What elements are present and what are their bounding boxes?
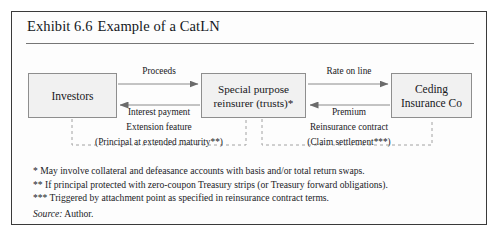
source-value: Author. [62, 208, 93, 219]
title-divider [26, 43, 474, 44]
node-investors[interactable]: Investors [28, 73, 117, 118]
source-label: Source: [33, 208, 62, 219]
node-ceding-insurance-co-label: Ceding Insurance Co [401, 82, 462, 110]
node-special-purpose-reinsurer-label: Special purpose reinsurer (trusts)* [214, 82, 294, 110]
catln-flow-diagram: Investors Special purpose reinsurer (tru… [12, 45, 486, 160]
flow-label-interest-payment: Interest payment [128, 107, 190, 118]
exhibit-frame: Exhibit 6.6Example of a CatLN Investors [11, 11, 487, 225]
flow-label-claim-settlement: (Claim settlement***) [307, 137, 390, 148]
flow-label-principal-maturity: (Principal at extended maturity**) [95, 137, 223, 148]
flow-label-extension-feature: Extension feature [126, 122, 191, 133]
exhibit-title: Exhibit 6.6Example of a CatLN [27, 18, 220, 35]
flow-label-reinsurance-contract: Reinsurance contract [310, 122, 388, 133]
exhibit-number: Exhibit 6.6 [27, 18, 93, 34]
flow-label-premium: Premium [332, 107, 366, 118]
exhibit-footnotes: * May involve collateral and defeasance … [33, 164, 473, 205]
flow-label-proceeds: Proceeds [142, 66, 176, 77]
flow-label-rate-on-line: Rate on line [327, 66, 372, 77]
node-investors-label: Investors [51, 89, 93, 103]
node-ceding-insurance-co[interactable]: Ceding Insurance Co [391, 73, 472, 118]
exhibit-title-text: Example of a CatLN [98, 18, 220, 34]
exhibit-source: Source: Author. [33, 208, 93, 219]
footnote-1: * May involve collateral and defeasance … [33, 164, 473, 178]
footnote-2: ** If principal protected with zero-coup… [33, 178, 473, 192]
footnote-3: *** Triggered by attachment point as spe… [33, 191, 473, 205]
node-special-purpose-reinsurer[interactable]: Special purpose reinsurer (trusts)* [201, 73, 306, 118]
